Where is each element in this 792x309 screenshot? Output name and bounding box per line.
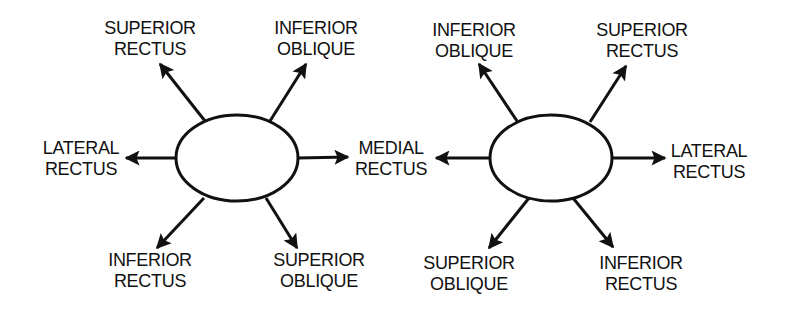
label-left-superior-oblique: SUPERIOR OBLIQUE xyxy=(273,250,365,292)
label-left-inferior-oblique: INFERIOR OBLIQUE xyxy=(274,18,358,60)
arrow-medial-rectus-icon xyxy=(298,157,348,158)
label-line: INFERIOR xyxy=(599,253,683,274)
label-line: RECTUS xyxy=(599,274,683,295)
label-line: LATERAL xyxy=(43,138,120,159)
label-line: RECTUS xyxy=(671,162,748,183)
label-line: OBLIQUE xyxy=(273,271,365,292)
left-eye-diagram xyxy=(126,64,348,248)
label-line: RECTUS xyxy=(596,41,688,62)
label-right-inferior-rectus: INFERIOR RECTUS xyxy=(599,253,683,295)
label-line: SUPERIOR xyxy=(273,250,365,271)
arrow-inferior-rectus-icon xyxy=(573,198,613,247)
label-line: SUPERIOR xyxy=(104,18,196,39)
arrow-superior-rectus-icon xyxy=(160,64,205,121)
arrow-inferior-oblique-icon xyxy=(479,64,517,121)
arrow-superior-rectus-icon xyxy=(590,66,626,122)
label-line: RECTUS xyxy=(43,159,120,180)
label-line: RECTUS xyxy=(104,39,196,60)
label-left-inferior-rectus: INFERIOR RECTUS xyxy=(108,250,192,292)
label-right-superior-rectus: SUPERIOR RECTUS xyxy=(596,20,688,62)
arrow-superior-oblique-icon xyxy=(266,198,297,248)
right-eye-diagram xyxy=(436,64,665,248)
label-right-lateral-rectus: LATERAL RECTUS xyxy=(671,141,748,183)
eye-ellipse xyxy=(490,115,612,201)
label-line: OBLIQUE xyxy=(423,274,515,295)
label-right-inferior-oblique: INFERIOR OBLIQUE xyxy=(432,20,516,62)
label-line: SUPERIOR xyxy=(423,253,515,274)
label-line: RECTUS xyxy=(108,271,192,292)
eye-ellipse xyxy=(176,115,298,201)
label-line: INFERIOR xyxy=(432,20,516,41)
label-line: INFERIOR xyxy=(108,250,192,271)
label-line: SUPERIOR xyxy=(596,20,688,41)
arrow-superior-oblique-icon xyxy=(489,198,529,248)
arrow-inferior-rectus-icon xyxy=(157,198,204,248)
label-line: OBLIQUE xyxy=(274,39,358,60)
label-line: LATERAL xyxy=(671,141,748,162)
arrow-inferior-oblique-icon xyxy=(270,64,306,121)
label-line: RECTUS xyxy=(355,159,427,180)
label-line: OBLIQUE xyxy=(432,41,516,62)
label-left-superior-rectus: SUPERIOR RECTUS xyxy=(104,18,196,60)
label-left-lateral-rectus: LATERAL RECTUS xyxy=(43,138,120,180)
label-line: INFERIOR xyxy=(274,18,358,39)
label-medial-rectus-shared: MEDIAL RECTUS xyxy=(355,138,427,180)
label-line: MEDIAL xyxy=(355,138,427,159)
label-right-superior-oblique: SUPERIOR OBLIQUE xyxy=(423,253,515,295)
